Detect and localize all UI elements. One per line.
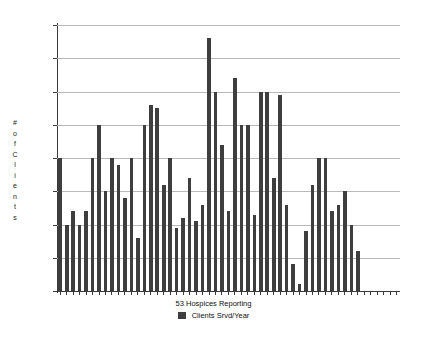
bar xyxy=(123,198,127,291)
bar xyxy=(246,125,250,291)
bar xyxy=(71,211,75,291)
x-axis-tick xyxy=(118,291,119,295)
x-axis-tick xyxy=(351,291,352,295)
bar xyxy=(324,158,328,291)
y-axis-title-char: i xyxy=(8,171,22,182)
bar xyxy=(285,205,289,291)
x-axis-tick xyxy=(189,291,190,295)
x-axis-tick xyxy=(325,291,326,295)
x-axis-tick xyxy=(215,291,216,295)
x-axis-tick xyxy=(196,291,197,295)
plot-area xyxy=(57,25,400,291)
x-axis-tick xyxy=(260,291,261,295)
x-axis-tick xyxy=(157,291,158,295)
bar-chart: #ofClients 53 Hospices Reporting Clients… xyxy=(0,0,427,341)
bar xyxy=(233,78,237,291)
x-axis-title: 53 Hospices Reporting xyxy=(0,299,427,308)
x-axis-tick xyxy=(183,291,184,295)
bar xyxy=(298,284,302,291)
x-axis-tick xyxy=(293,291,294,295)
x-axis-tick xyxy=(299,291,300,295)
x-axis-tick xyxy=(150,291,151,295)
bar xyxy=(78,225,82,292)
bar xyxy=(272,178,276,291)
bar xyxy=(356,251,360,291)
y-axis-title-char: o xyxy=(8,129,22,140)
bar xyxy=(311,185,315,291)
x-axis-tick xyxy=(137,291,138,295)
bar xyxy=(181,218,185,291)
bar xyxy=(330,211,334,291)
x-axis-tick xyxy=(202,291,203,295)
bar xyxy=(265,92,269,292)
bar xyxy=(65,225,69,292)
x-axis-tick xyxy=(280,291,281,295)
x-axis-tick xyxy=(390,291,391,295)
y-axis-title-char: s xyxy=(8,213,22,224)
bar xyxy=(130,158,134,291)
x-axis-tick xyxy=(234,291,235,295)
y-axis-title-char: t xyxy=(8,202,22,213)
bar-series-clients-srvd-year xyxy=(57,25,400,291)
y-axis-title: #ofClients xyxy=(8,118,22,223)
bar xyxy=(117,165,121,291)
x-axis-tick xyxy=(241,291,242,295)
legend-label-clients-srvd-year: Clients Srvd/Year xyxy=(192,311,250,320)
bar xyxy=(194,221,198,291)
x-axis-tick xyxy=(228,291,229,295)
x-axis-tick xyxy=(396,291,397,295)
y-axis-title-char: n xyxy=(8,192,22,203)
bar xyxy=(58,158,62,291)
x-axis-tick xyxy=(105,291,106,295)
x-axis-tick xyxy=(331,291,332,295)
x-axis-tick xyxy=(99,291,100,295)
bar xyxy=(136,238,140,291)
x-axis-tick xyxy=(66,291,67,295)
bar xyxy=(253,215,257,291)
bar xyxy=(227,211,231,291)
x-axis-tick xyxy=(144,291,145,295)
bar xyxy=(220,145,224,291)
bar xyxy=(207,38,211,291)
bar xyxy=(201,205,205,291)
bar xyxy=(214,92,218,292)
y-axis-title-char: l xyxy=(8,160,22,171)
y-axis-title-char: C xyxy=(8,150,22,161)
bar xyxy=(143,125,147,291)
legend-swatch-clients-srvd-year xyxy=(178,312,186,319)
x-axis-tick xyxy=(60,291,61,295)
x-axis-tick xyxy=(221,291,222,295)
x-axis-tick xyxy=(357,291,358,295)
x-axis-tick xyxy=(131,291,132,295)
bar xyxy=(304,231,308,291)
y-axis-title-char: # xyxy=(8,118,22,129)
bar xyxy=(240,125,244,291)
bar xyxy=(188,178,192,291)
x-axis-tick xyxy=(312,291,313,295)
bar-slot xyxy=(393,25,399,291)
bar xyxy=(149,105,153,291)
x-axis-tick xyxy=(338,291,339,295)
bar xyxy=(350,225,354,292)
chart-legend: Clients Srvd/Year xyxy=(0,311,427,320)
x-axis-ticks xyxy=(57,291,400,296)
x-axis-tick xyxy=(377,291,378,295)
bar xyxy=(259,92,263,292)
x-axis-tick xyxy=(247,291,248,295)
bar xyxy=(168,158,172,291)
x-axis-tick xyxy=(176,291,177,295)
x-axis-tick xyxy=(370,291,371,295)
bar xyxy=(104,191,108,291)
x-axis-tick xyxy=(111,291,112,295)
x-axis-tick xyxy=(124,291,125,295)
x-axis-tick-slot xyxy=(393,291,399,296)
x-axis-tick xyxy=(273,291,274,295)
bar xyxy=(291,264,295,291)
x-axis-tick xyxy=(286,291,287,295)
bar xyxy=(343,191,347,291)
x-axis-tick xyxy=(318,291,319,295)
bar xyxy=(97,125,101,291)
bar xyxy=(175,228,179,291)
bar xyxy=(337,205,341,291)
x-axis-tick xyxy=(170,291,171,295)
